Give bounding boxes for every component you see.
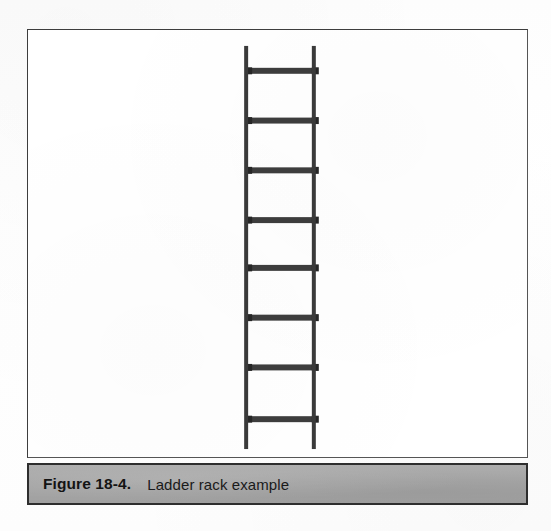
ladder-rack-illustration — [28, 30, 527, 457]
ladder-rung — [246, 416, 318, 422]
figure-frame — [27, 29, 528, 458]
ladder-rung — [246, 265, 318, 271]
ladder-rung — [246, 118, 318, 124]
ladder-rung — [246, 68, 318, 74]
left-rail — [244, 46, 248, 449]
figure-caption-label: Figure 18-4. — [43, 475, 131, 493]
ladder-rung — [246, 364, 318, 370]
figure-caption-text: Ladder rack example — [147, 476, 289, 493]
ladder-rung — [246, 167, 318, 173]
ladder-rung — [246, 217, 318, 223]
figure-caption-bar: Figure 18-4. Ladder rack example — [27, 463, 528, 505]
ladder-rung — [246, 315, 318, 321]
right-rail — [312, 46, 316, 449]
ladder-group — [244, 46, 319, 449]
